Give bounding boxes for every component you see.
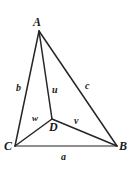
side-label-c: c [85, 81, 89, 91]
vertex-label-A: A [33, 16, 41, 28]
side-label-a: a [61, 152, 66, 162]
vertex-label-C: C [4, 140, 12, 152]
geometry-diagram: A B C D b c a u v w [0, 0, 132, 171]
cevian-label-v: v [74, 116, 78, 126]
cevian-label-u: u [52, 85, 58, 95]
side-label-b: b [16, 83, 21, 93]
vertex-label-B: B [119, 140, 127, 152]
segment-AD [39, 31, 52, 119]
vertex-label-D: D [49, 121, 58, 133]
cevian-label-w: w [32, 114, 38, 123]
